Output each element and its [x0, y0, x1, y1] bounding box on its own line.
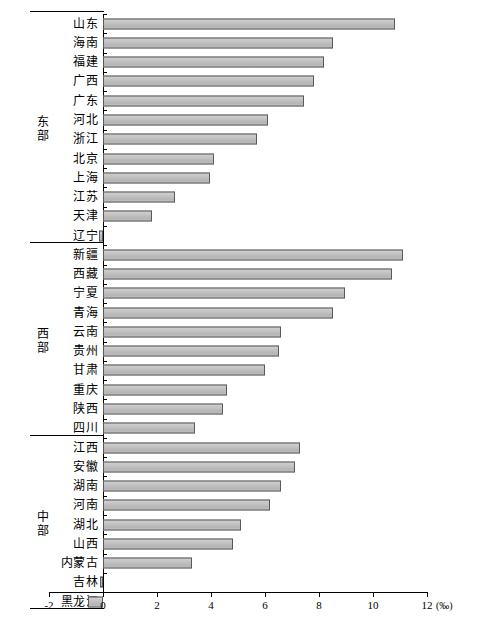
- category-label: 宁夏: [73, 286, 98, 300]
- category-tick: [103, 515, 107, 516]
- bar-row: 江苏: [0, 187, 477, 206]
- group-label: 中 部: [30, 510, 56, 538]
- bar: [103, 211, 152, 222]
- bar-row: 广西: [0, 72, 477, 91]
- bar-row: 福建: [0, 53, 477, 72]
- category-tick: [103, 187, 107, 188]
- bar-row: 吉林: [0, 573, 477, 592]
- bar: [100, 577, 103, 588]
- axis-tick: [373, 592, 374, 597]
- category-label: 甘肃: [73, 363, 98, 377]
- category-tick: [103, 14, 107, 15]
- bar-row: 北京: [0, 149, 477, 168]
- category-label: 海南: [73, 36, 98, 50]
- bar: [103, 326, 281, 337]
- category-tick: [103, 419, 107, 420]
- bar-row: 陕西: [0, 399, 477, 418]
- bar-row: 广东: [0, 91, 477, 110]
- category-tick: [103, 168, 107, 169]
- category-tick: [103, 207, 107, 208]
- bar-row: 内蒙古: [0, 554, 477, 573]
- category-label: 河南: [73, 498, 98, 512]
- bar-row: 云南: [0, 322, 477, 341]
- axis-unit-label: (‰): [436, 599, 453, 612]
- category-tick: [103, 322, 107, 323]
- axis-tick-label: 0: [83, 599, 123, 612]
- category-label: 四川: [73, 421, 98, 435]
- bar-row: 西藏: [0, 265, 477, 284]
- bar-row: 安徽: [0, 457, 477, 476]
- category-label: 福建: [73, 55, 98, 69]
- category-label: 新疆: [73, 248, 98, 262]
- category-label: 贵州: [73, 344, 98, 358]
- bar: [103, 307, 333, 318]
- bar-row: 上海: [0, 168, 477, 187]
- bar-row: 青海: [0, 303, 477, 322]
- bar: [103, 500, 270, 511]
- bar-row: 重庆: [0, 380, 477, 399]
- group-label: 东 部: [30, 115, 56, 143]
- bar-chart: 山东海南福建广西广东河北浙江北京上海江苏天津辽宁新疆西藏宁夏青海云南贵州甘肃重庆…: [0, 0, 477, 631]
- category-tick: [103, 303, 107, 304]
- category-label: 吉林: [73, 575, 98, 589]
- axis-tick: [157, 592, 158, 597]
- bar: [103, 442, 300, 453]
- bar: [103, 172, 210, 183]
- category-tick: [103, 361, 107, 362]
- category-tick: [103, 53, 107, 54]
- bar: [103, 192, 175, 203]
- category-label: 西藏: [73, 267, 98, 281]
- bar: [103, 538, 233, 549]
- bar: [103, 461, 295, 472]
- category-tick: [103, 342, 107, 343]
- bar: [103, 288, 345, 299]
- category-tick: [103, 573, 107, 574]
- bar-row: 海南: [0, 33, 477, 52]
- bar: [99, 230, 103, 241]
- bar: [103, 134, 257, 145]
- category-label: 北京: [73, 152, 98, 166]
- category-label: 安徽: [73, 460, 98, 474]
- bar-row: 河南: [0, 496, 477, 515]
- category-tick: [103, 399, 107, 400]
- bar: [103, 346, 279, 357]
- bar: [103, 249, 403, 260]
- category-label: 天津: [73, 209, 98, 223]
- category-label: 广东: [73, 94, 98, 108]
- category-tick: [103, 72, 107, 73]
- category-tick: [103, 91, 107, 92]
- bar-row: 山东: [0, 14, 477, 33]
- bar: [103, 558, 192, 569]
- bar-row: 湖南: [0, 476, 477, 495]
- bar: [103, 114, 268, 125]
- axis-tick-label: 2: [137, 599, 177, 612]
- category-label: 湖南: [73, 479, 98, 493]
- axis-tick-label: 10: [353, 599, 393, 612]
- group-separator: [30, 11, 104, 12]
- category-label: 山西: [73, 537, 98, 551]
- bar: [103, 423, 195, 434]
- bar-row: 江西: [0, 438, 477, 457]
- category-tick: [103, 130, 107, 131]
- axis-tick-label: 4: [191, 599, 231, 612]
- category-label: 浙江: [73, 132, 98, 146]
- category-tick: [103, 245, 107, 246]
- category-label: 内蒙古: [61, 556, 99, 570]
- bar: [103, 365, 265, 376]
- bar-row: 宁夏: [0, 284, 477, 303]
- category-tick: [103, 438, 107, 439]
- bar: [103, 18, 395, 29]
- bar-row: 甘肃: [0, 361, 477, 380]
- bar: [103, 76, 314, 87]
- bar: [103, 57, 324, 68]
- bar: [103, 384, 227, 395]
- category-label: 广西: [73, 74, 98, 88]
- axis-tick: [427, 592, 428, 597]
- category-label: 河北: [73, 113, 98, 127]
- category-label: 湖北: [73, 518, 98, 532]
- category-tick: [103, 496, 107, 497]
- bar: [103, 519, 241, 530]
- bar-rows: 山东海南福建广西广东河北浙江北京上海江苏天津辽宁新疆西藏宁夏青海云南贵州甘肃重庆…: [0, 14, 477, 592]
- category-label: 重庆: [73, 383, 98, 397]
- category-tick: [103, 554, 107, 555]
